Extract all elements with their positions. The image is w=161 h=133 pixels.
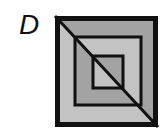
nested-squares-figure (0, 0, 161, 133)
